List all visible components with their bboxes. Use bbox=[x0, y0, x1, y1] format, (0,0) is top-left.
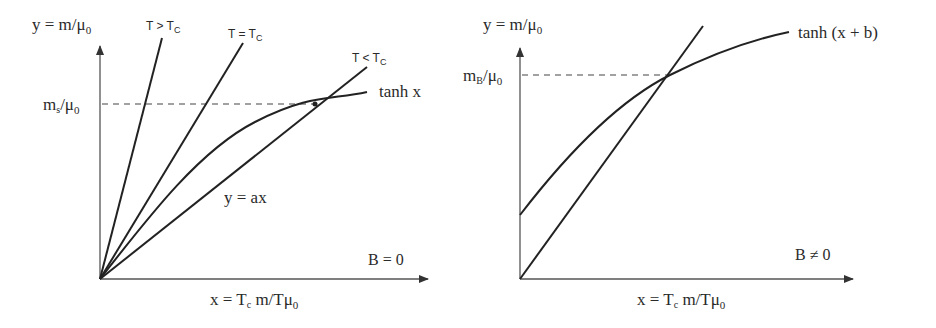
right-panel: y = m/μ0 tanh (x + b) mB/μ0 B ≠ 0 x = Tc… bbox=[463, 15, 878, 311]
line-t-above-tc bbox=[100, 38, 162, 279]
right-level-label: mB/μ0 bbox=[463, 66, 503, 87]
label-t-above-tc: T > TC bbox=[146, 19, 181, 35]
mean-field-diagram: y = m/μ0 T > TC T = TC T < TC tanh x ms/… bbox=[0, 0, 936, 328]
label-t-below-tc: T < TC bbox=[352, 51, 387, 67]
left-condition-label: B = 0 bbox=[368, 251, 404, 268]
right-y-axis-label: y = m/μ0 bbox=[483, 15, 543, 36]
tanh-x-label: tanh x bbox=[379, 82, 422, 101]
left-y-axis-label: y = m/μ0 bbox=[32, 15, 92, 36]
line-equation-label: y = ax bbox=[224, 188, 267, 207]
left-panel: y = m/μ0 T > TC T = TC T < TC tanh x ms/… bbox=[32, 15, 428, 311]
left-x-axis-label: x = Tc m/Tμ0 bbox=[210, 290, 299, 311]
left-intersection-point bbox=[313, 102, 318, 107]
line-t-equal-tc bbox=[100, 43, 243, 279]
tanh-x-plus-b-curve bbox=[520, 32, 789, 215]
left-saturation-label: ms/μ0 bbox=[43, 95, 80, 116]
right-straight-line bbox=[520, 26, 703, 279]
tanh-x-plus-b-label: tanh (x + b) bbox=[798, 23, 878, 42]
right-x-axis-label: x = Tc m/Tμ0 bbox=[637, 290, 726, 311]
right-condition-label: B ≠ 0 bbox=[795, 246, 830, 263]
label-t-equal-tc: T = TC bbox=[228, 27, 263, 43]
